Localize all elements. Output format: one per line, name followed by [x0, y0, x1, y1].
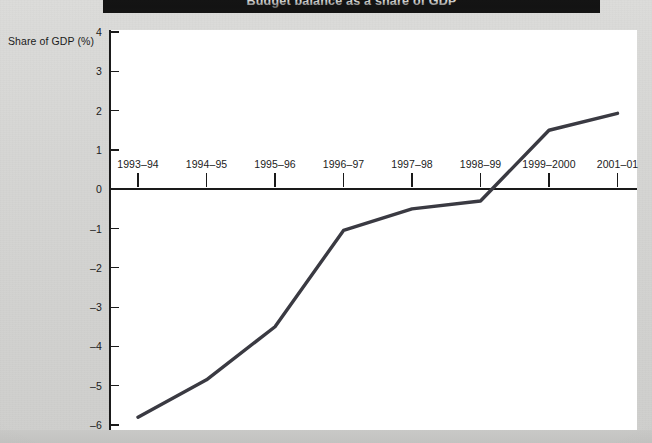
- series-line-share-of-gdp: [138, 113, 618, 417]
- chart-plot: [0, 13, 652, 443]
- axis-ticks: [110, 32, 618, 425]
- data-series-line: [138, 113, 618, 417]
- chart-figure: Share of GDP (%) 43210–1–2–3–4–5–6 1993–…: [0, 13, 652, 443]
- header-banner: Budget balance as a share of GDP: [103, 0, 600, 13]
- banner-crop-shade: [103, 0, 600, 13]
- footer-band: [0, 430, 652, 443]
- axis-lines: [109, 30, 637, 431]
